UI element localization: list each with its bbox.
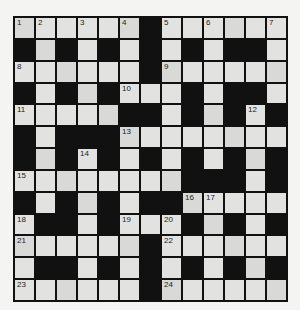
answer-cell[interactable]: 15 bbox=[15, 171, 34, 191]
answer-cell[interactable] bbox=[36, 40, 55, 60]
answer-cell[interactable] bbox=[246, 280, 265, 300]
answer-cell[interactable] bbox=[246, 171, 265, 191]
answer-cell[interactable]: 8 bbox=[15, 62, 34, 82]
answer-cell[interactable]: 4 bbox=[120, 18, 139, 38]
answer-cell[interactable]: 16 bbox=[183, 193, 202, 213]
answer-cell[interactable] bbox=[57, 105, 76, 125]
answer-cell[interactable] bbox=[267, 62, 286, 82]
answer-cell[interactable] bbox=[204, 40, 223, 60]
answer-cell[interactable] bbox=[246, 18, 265, 38]
answer-cell[interactable]: 22 bbox=[162, 236, 181, 256]
answer-cell[interactable]: 18 bbox=[15, 215, 34, 235]
answer-cell[interactable] bbox=[36, 127, 55, 147]
answer-cell[interactable]: 5 bbox=[162, 18, 181, 38]
answer-cell[interactable] bbox=[162, 105, 181, 125]
answer-cell[interactable] bbox=[78, 236, 97, 256]
answer-cell[interactable]: 20 bbox=[162, 215, 181, 235]
answer-cell[interactable] bbox=[204, 105, 223, 125]
answer-cell[interactable] bbox=[99, 18, 118, 38]
answer-cell[interactable]: 19 bbox=[120, 215, 139, 235]
answer-cell[interactable] bbox=[57, 18, 76, 38]
answer-cell[interactable] bbox=[225, 62, 244, 82]
answer-cell[interactable] bbox=[120, 40, 139, 60]
answer-cell[interactable] bbox=[36, 62, 55, 82]
answer-cell[interactable] bbox=[78, 215, 97, 235]
answer-cell[interactable] bbox=[120, 171, 139, 191]
answer-cell[interactable] bbox=[246, 236, 265, 256]
answer-cell[interactable] bbox=[36, 149, 55, 169]
answer-cell[interactable] bbox=[36, 171, 55, 191]
answer-cell[interactable] bbox=[162, 127, 181, 147]
answer-cell[interactable] bbox=[246, 62, 265, 82]
answer-cell[interactable] bbox=[267, 84, 286, 104]
answer-cell[interactable] bbox=[267, 40, 286, 60]
answer-cell[interactable] bbox=[267, 280, 286, 300]
answer-cell[interactable] bbox=[141, 84, 160, 104]
answer-cell[interactable] bbox=[36, 84, 55, 104]
answer-cell[interactable] bbox=[246, 149, 265, 169]
answer-cell[interactable] bbox=[57, 236, 76, 256]
answer-cell[interactable] bbox=[204, 127, 223, 147]
answer-cell[interactable]: 2 bbox=[36, 18, 55, 38]
answer-cell[interactable] bbox=[78, 258, 97, 278]
answer-cell[interactable] bbox=[78, 84, 97, 104]
answer-cell[interactable] bbox=[204, 236, 223, 256]
answer-cell[interactable] bbox=[183, 62, 202, 82]
answer-cell[interactable] bbox=[141, 127, 160, 147]
answer-cell[interactable] bbox=[36, 280, 55, 300]
answer-cell[interactable] bbox=[36, 193, 55, 213]
answer-cell[interactable] bbox=[120, 258, 139, 278]
answer-cell[interactable] bbox=[120, 149, 139, 169]
answer-cell[interactable] bbox=[141, 215, 160, 235]
answer-cell[interactable]: 17 bbox=[204, 193, 223, 213]
answer-cell[interactable] bbox=[78, 105, 97, 125]
answer-cell[interactable]: 11 bbox=[15, 105, 34, 125]
answer-cell[interactable]: 13 bbox=[120, 127, 139, 147]
answer-cell[interactable] bbox=[36, 236, 55, 256]
answer-cell[interactable] bbox=[267, 236, 286, 256]
answer-cell[interactable] bbox=[99, 105, 118, 125]
answer-cell[interactable] bbox=[267, 193, 286, 213]
answer-cell[interactable] bbox=[120, 236, 139, 256]
answer-cell[interactable] bbox=[204, 84, 223, 104]
answer-cell[interactable]: 24 bbox=[162, 280, 181, 300]
answer-cell[interactable] bbox=[57, 171, 76, 191]
answer-cell[interactable] bbox=[225, 236, 244, 256]
answer-cell[interactable] bbox=[267, 127, 286, 147]
answer-cell[interactable] bbox=[162, 171, 181, 191]
answer-cell[interactable] bbox=[120, 280, 139, 300]
answer-cell[interactable] bbox=[162, 258, 181, 278]
answer-cell[interactable] bbox=[204, 280, 223, 300]
answer-cell[interactable]: 10 bbox=[120, 84, 139, 104]
answer-cell[interactable] bbox=[78, 193, 97, 213]
answer-cell[interactable] bbox=[162, 84, 181, 104]
answer-cell[interactable] bbox=[99, 171, 118, 191]
answer-cell[interactable] bbox=[225, 280, 244, 300]
answer-cell[interactable] bbox=[78, 171, 97, 191]
answer-cell[interactable] bbox=[246, 258, 265, 278]
answer-cell[interactable]: 14 bbox=[78, 149, 97, 169]
answer-cell[interactable] bbox=[99, 62, 118, 82]
answer-cell[interactable] bbox=[78, 280, 97, 300]
answer-cell[interactable] bbox=[204, 62, 223, 82]
answer-cell[interactable] bbox=[78, 40, 97, 60]
answer-cell[interactable] bbox=[141, 171, 160, 191]
answer-cell[interactable]: 7 bbox=[267, 18, 286, 38]
answer-cell[interactable] bbox=[162, 40, 181, 60]
answer-cell[interactable] bbox=[204, 215, 223, 235]
answer-cell[interactable]: 3 bbox=[78, 18, 97, 38]
answer-cell[interactable]: 6 bbox=[204, 18, 223, 38]
answer-cell[interactable] bbox=[99, 236, 118, 256]
answer-cell[interactable] bbox=[246, 127, 265, 147]
answer-cell[interactable] bbox=[120, 193, 139, 213]
answer-cell[interactable] bbox=[57, 62, 76, 82]
answer-cell[interactable]: 23 bbox=[15, 280, 34, 300]
answer-cell[interactable] bbox=[225, 193, 244, 213]
answer-cell[interactable]: 12 bbox=[246, 105, 265, 125]
answer-cell[interactable] bbox=[246, 215, 265, 235]
answer-cell[interactable] bbox=[183, 127, 202, 147]
answer-cell[interactable] bbox=[15, 258, 34, 278]
answer-cell[interactable] bbox=[162, 149, 181, 169]
answer-cell[interactable] bbox=[204, 149, 223, 169]
answer-cell[interactable] bbox=[183, 236, 202, 256]
